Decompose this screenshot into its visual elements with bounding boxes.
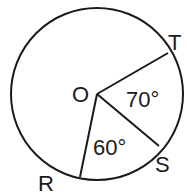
angle-label-TOS: 70° [126,87,159,112]
label-O: O [72,82,89,107]
angle-label-SOR: 60° [93,135,126,160]
label-S: S [155,152,170,177]
label-T: T [168,30,181,55]
label-R: R [38,171,54,194]
circle-diagram: O T S R 70° 60° [0,0,187,194]
